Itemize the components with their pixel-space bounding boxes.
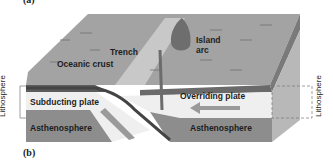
panel-label-a: (a) — [23, 0, 35, 5]
label-overriding-plate: Overriding plate — [180, 92, 245, 101]
block-diagram-illustration — [0, 0, 333, 162]
label-island-arc-1: Island — [196, 36, 221, 45]
label-asthenosphere-left: Asthenosphere — [30, 124, 92, 133]
label-lithosphere-left: Lithosphere — [0, 75, 7, 117]
subduction-diagram: (a) Island arc Trench Oceanic crust Subd… — [0, 0, 333, 162]
label-subducting-plate: Subducting plate — [30, 98, 99, 107]
label-lithosphere-right: Lithosphere — [315, 75, 323, 117]
panel-label-b: (b) — [23, 148, 35, 158]
label-island-arc-2: arc — [196, 46, 209, 55]
label-asthenosphere-right: Asthenosphere — [190, 124, 252, 133]
label-trench: Trench — [110, 48, 138, 57]
label-oceanic-crust: Oceanic crust — [57, 60, 113, 69]
